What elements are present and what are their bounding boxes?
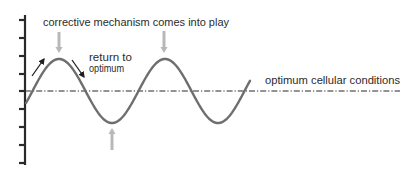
optimum-conditions-label: optimum cellular conditions: [265, 74, 400, 86]
up-arrow-trough-icon: [108, 128, 115, 150]
return-to-optimum-label-line2: optimum: [89, 62, 124, 74]
down-arrow-peak-icon: [55, 32, 62, 53]
y-axis: [19, 15, 25, 165]
down-arrow-peak-icon: [160, 31, 167, 53]
homeostasis-diagram: corrective mechanism comes into play ret…: [0, 0, 414, 175]
corrective-mechanism-label: corrective mechanism comes into play: [43, 16, 229, 28]
